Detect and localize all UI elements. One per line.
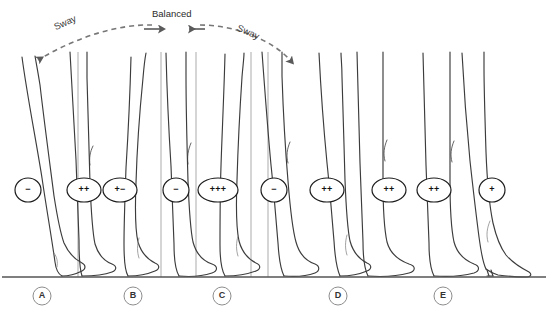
- leg-b-1: [124, 53, 159, 276]
- panel-label-e: E: [434, 290, 452, 300]
- leg-c-1: [220, 53, 260, 276]
- badge-b-2: +−: [103, 184, 137, 194]
- leg-sway-diagram: [0, 0, 555, 313]
- panel-label-d: D: [329, 290, 347, 300]
- leg-d-2: [357, 52, 414, 276]
- badge-e-2: ++: [417, 184, 451, 194]
- panel-label-circles: [33, 287, 452, 305]
- badge-e-1: ++: [372, 184, 406, 194]
- badge-c-3: −: [261, 184, 287, 194]
- badge-e-3: +: [479, 184, 505, 194]
- figure-canvas: Sway Balanced Sway − ++ +− − +++ − ++ ++…: [0, 0, 555, 313]
- leg-a-1: [22, 56, 85, 276]
- badge-c-1: −: [163, 184, 189, 194]
- panel-label-a: A: [33, 290, 51, 300]
- badge-b-1: ++: [67, 184, 101, 194]
- leg-c-2: [262, 52, 319, 276]
- badge-a-1: −: [15, 184, 41, 194]
- leg-e-2-heel: [462, 52, 531, 277]
- panel-label-b: B: [124, 290, 142, 300]
- badge-d-1: ++: [310, 184, 344, 194]
- balanced-label: Balanced: [152, 8, 192, 19]
- badge-c-2: +++: [198, 184, 238, 194]
- panel-label-c: C: [213, 290, 231, 300]
- leg-a-2: [70, 52, 116, 276]
- leg-b-2: [166, 52, 217, 276]
